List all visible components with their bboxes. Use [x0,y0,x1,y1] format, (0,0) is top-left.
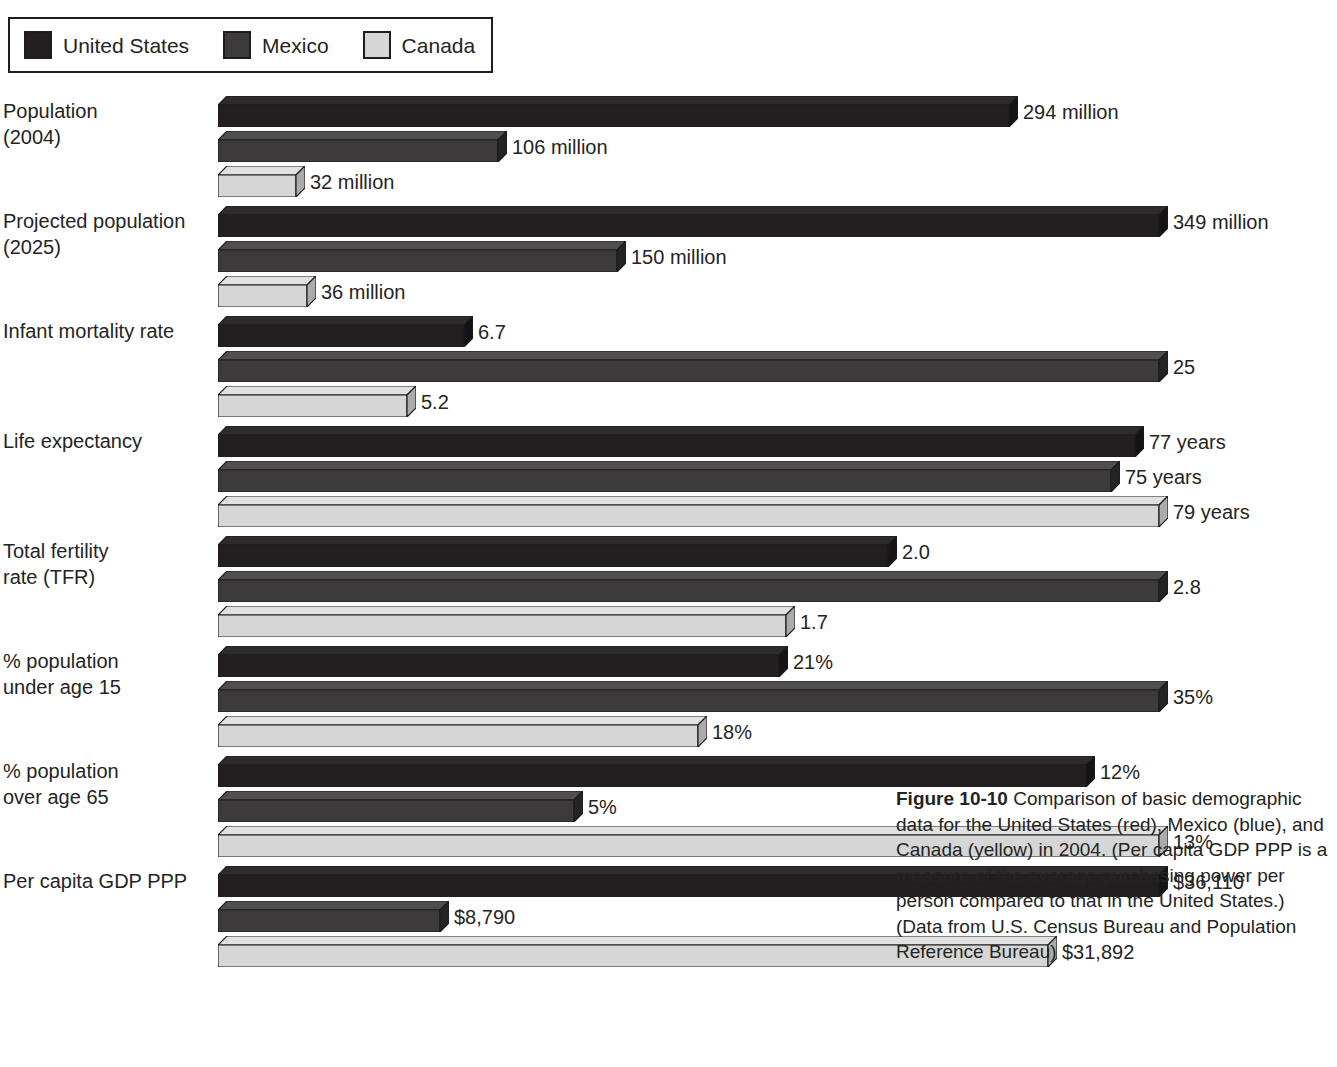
bar-group-label: % population over age 65 [3,758,218,810]
bar-3d [218,716,707,747]
bar-group-bars: 6.7255.2 [218,316,1337,421]
bar-row: 32 million [218,166,1337,201]
bar-3d [218,426,1144,457]
bar-group-label: Infant mortality rate [3,318,218,344]
bar-3d [218,791,583,822]
bar-group-label: % population under age 15 [3,648,218,700]
bar-shape [218,496,1168,527]
bar-row: 106 million [218,131,1337,166]
bar-group-bars: 21%35%18% [218,646,1337,751]
bar-3d [218,316,473,347]
bar-row: 21% [218,646,1337,681]
bar-value-label: 6.7 [478,320,506,344]
bar-3d [218,571,1168,602]
bar-row: 77 years [218,426,1337,461]
bar-3d [218,206,1168,237]
bar-value-label: 25 [1173,355,1195,379]
bar-3d [218,461,1120,492]
bar-value-label: 32 million [310,170,394,194]
bar-value-label: 79 years [1173,500,1250,524]
bar-shape [218,386,416,417]
bar-group-label: Life expectancy [3,428,218,454]
bar-3d [218,166,305,197]
bar-group-label: Total fertility rate (TFR) [3,538,218,590]
bar-row: 294 million [218,96,1337,131]
bar-group: Projected population (2025)349 million15… [0,206,1337,316]
bar-shape [218,571,1168,602]
bar-row: 6.7 [218,316,1337,351]
bar-shape [218,901,449,932]
bar-3d [218,96,1018,127]
bar-row: 36 million [218,276,1337,311]
bar-group: Population (2004)294 million106 million3… [0,96,1337,206]
bar-3d [218,606,795,637]
bar-group-bars: 349 million150 million36 million [218,206,1337,311]
bar-shape [218,206,1168,237]
bar-row: 2.0 [218,536,1337,571]
bar-value-label: 12% [1100,760,1140,784]
bar-3d [218,681,1168,712]
bar-3d [218,276,316,307]
bar-shape [218,756,1095,787]
bar-shape [218,276,316,307]
figure-caption-text: Comparison of basic demographic data for… [896,788,1327,962]
bar-shape [218,241,626,272]
bar-group: Infant mortality rate6.7255.2 [0,316,1337,426]
bar-shape [218,351,1168,382]
bar-value-label: 5% [588,795,617,819]
bar-group-label: Population (2004) [3,98,218,150]
bar-group-label: Projected population (2025) [3,208,218,260]
legend-label-united-states: United States [63,35,189,56]
bar-group-bars: 2.02.81.7 [218,536,1337,641]
bar-group-bars: 294 million106 million32 million [218,96,1337,201]
legend-label-canada: Canada [402,35,476,56]
bar-value-label: 36 million [321,280,405,304]
bar-shape [218,716,707,747]
bar-shape [218,96,1018,127]
bar-value-label: 35% [1173,685,1213,709]
bar-shape [218,131,507,162]
bar-3d [218,351,1168,382]
bar-group: Total fertility rate (TFR)2.02.81.7 [0,536,1337,646]
bar-shape [218,681,1168,712]
bar-row: 25 [218,351,1337,386]
bar-group-bars: 77 years75 years79 years [218,426,1337,531]
legend-item-mexico: Mexico [223,31,329,59]
bar-row: 5.2 [218,386,1337,421]
bar-value-label: $8,790 [454,905,515,929]
bar-value-label: 18% [712,720,752,744]
bar-shape [218,316,473,347]
bar-row: 349 million [218,206,1337,241]
bar-3d [218,241,626,272]
bar-3d [218,756,1095,787]
bar-3d [218,131,507,162]
bar-shape [218,606,795,637]
chart-legend: United States Mexico Canada [8,17,493,73]
bar-value-label: 77 years [1149,430,1226,454]
legend-item-united-states: United States [24,31,189,59]
bar-shape [218,536,897,567]
bar-row: 150 million [218,241,1337,276]
bar-value-label: 106 million [512,135,608,159]
bar-row: 79 years [218,496,1337,531]
bar-row: 1.7 [218,606,1337,641]
bar-group: % population under age 1521%35%18% [0,646,1337,756]
legend-swatch-united-states [24,31,52,59]
bar-3d [218,901,449,932]
figure-caption: Figure 10-10 Comparison of basic demogra… [896,786,1328,965]
bar-row: 75 years [218,461,1337,496]
bar-value-label: 150 million [631,245,727,269]
bar-row: 35% [218,681,1337,716]
bar-shape [218,791,583,822]
bar-value-label: 1.7 [800,610,828,634]
bar-value-label: 21% [793,650,833,674]
legend-label-mexico: Mexico [262,35,329,56]
bar-shape [218,426,1144,457]
bar-shape [218,646,788,677]
legend-swatch-mexico [223,31,251,59]
bar-value-label: 2.8 [1173,575,1201,599]
bar-3d [218,386,416,417]
bar-3d [218,646,788,677]
bar-3d [218,536,897,567]
bar-value-label: 2.0 [902,540,930,564]
